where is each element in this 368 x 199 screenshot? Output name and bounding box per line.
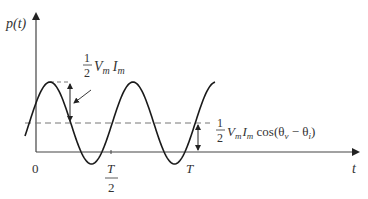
y-axis-label: p(t): [5, 16, 27, 32]
power-waveform-diagram: p(t) t 0 T 2 T 1 2 VmIm 1 2 VmIm cos(θv …: [0, 0, 368, 199]
tick-label-half-period-denominator: 2: [108, 180, 115, 195]
avg-frac-num: 1: [217, 116, 223, 130]
x-axis-label: t: [352, 161, 357, 176]
amplitude-leader-line: [74, 90, 91, 103]
tick-label-period: T: [186, 161, 194, 176]
tick-label-zero: 0: [32, 161, 39, 176]
avg-expr: VmIm cos(θv − θi): [227, 124, 315, 141]
amp-expr: VmIm: [94, 59, 125, 76]
amp-frac-num: 1: [84, 51, 90, 65]
tick-label-half-period-numerator: T: [107, 161, 115, 176]
avg-frac-den: 2: [217, 131, 223, 145]
average-annotation: 1 2 VmIm cos(θv − θi): [216, 116, 315, 145]
amp-frac-den: 2: [84, 66, 90, 80]
amplitude-annotation: 1 2 VmIm: [83, 51, 125, 80]
